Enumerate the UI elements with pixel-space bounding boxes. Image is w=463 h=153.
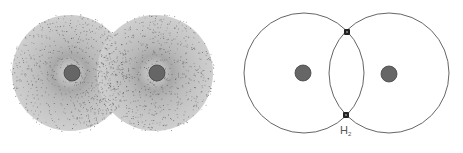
h2-molecule-diagrams bbox=[0, 0, 463, 153]
nucleus-icon bbox=[381, 66, 397, 82]
nucleus-icon bbox=[149, 65, 165, 81]
diagram-stage: H2 bbox=[0, 0, 463, 153]
h2-label-subscript: 2 bbox=[348, 131, 351, 137]
h2-label: H2 bbox=[340, 124, 351, 137]
orbit-diagram bbox=[244, 13, 449, 133]
h2-label-base: H bbox=[340, 124, 348, 136]
electron-cloud-diagram bbox=[10, 14, 215, 133]
nucleus-icon bbox=[64, 65, 80, 81]
nucleus-icon bbox=[295, 65, 311, 81]
